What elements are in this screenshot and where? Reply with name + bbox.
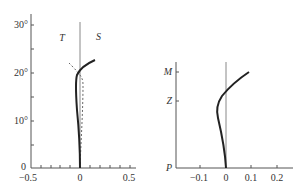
label-T: T [59, 32, 66, 43]
left-y-label-20: 20° [14, 67, 28, 78]
right-x-label-neg01: −0.1 [190, 172, 208, 183]
label-S: S [96, 31, 101, 42]
left-panel: 30° 20° 10° 0 −0.5 0 0.5 T S [14, 14, 136, 183]
curve-S-solid [76, 60, 95, 168]
profile-curve [217, 72, 249, 168]
right-x-label-01: 0.1 [245, 172, 258, 183]
left-x-label-neg05: −0.5 [19, 172, 37, 183]
diagram-canvas: 30° 20° 10° 0 −0.5 0 0.5 T S [0, 0, 302, 195]
left-y-label-0: 0 [21, 161, 26, 172]
right-x-label-02: 0.2 [271, 172, 284, 183]
right-y-label-Z: Z [166, 95, 172, 106]
right-y-label-M: M [163, 66, 173, 77]
right-x-label-0: 0 [224, 172, 229, 183]
left-y-label-10: 10° [14, 115, 28, 126]
left-y-label-30: 30° [14, 19, 28, 30]
right-y-label-P: P [165, 162, 172, 173]
left-x-label-0: 0 [78, 172, 83, 183]
left-x-label-05: 0.5 [123, 172, 136, 183]
right-panel: M Z P −0.1 0 0.1 0.2 [163, 62, 293, 183]
